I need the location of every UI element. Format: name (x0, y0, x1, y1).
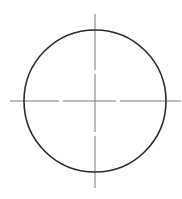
circle-diagram (0, 0, 182, 199)
drawing-canvas (0, 0, 182, 199)
